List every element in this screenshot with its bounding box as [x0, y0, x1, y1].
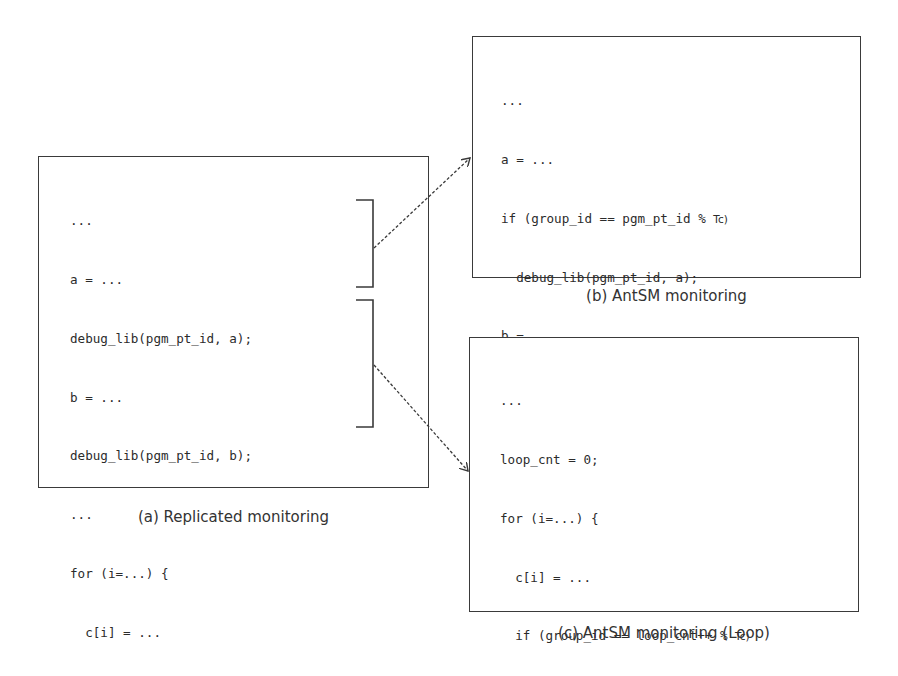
code-line: ...	[70, 211, 282, 231]
panel-a-caption: (a) Replicated monitoring	[38, 508, 429, 526]
code-line: debug_lib(pgm_pt_id, a);	[501, 268, 728, 288]
code-line: a = ...	[501, 150, 728, 170]
code-line: for (i=...) {	[500, 509, 750, 529]
code-line: a = ...	[70, 270, 282, 290]
code-text: if (group_id == pgm_pt_id %	[501, 211, 713, 226]
tc-symbol: Tc)	[713, 213, 728, 225]
code-line: loop_cnt = 0;	[500, 450, 750, 470]
code-line: debug_lib(pgm_pt_id, a);	[70, 329, 282, 349]
code-line: ...	[501, 91, 728, 111]
panel-a-code: ... a = ... debug_lib(pgm_pt_id, a); b =…	[70, 172, 282, 676]
code-line: c[i] = ...	[500, 568, 750, 588]
code-line: b = ...	[70, 388, 282, 408]
code-line: debug_lib(pgm_pt_id, b);	[70, 446, 282, 466]
code-line: c[i] = ...	[70, 623, 282, 643]
code-line: for (i=...) {	[70, 564, 282, 584]
panel-c-caption: (c) AntSM monitoring (Loop)	[469, 624, 859, 642]
code-line: if (group_id == pgm_pt_id % Tc)	[501, 209, 728, 229]
panel-b-caption: (b) AntSM monitoring	[472, 287, 861, 305]
code-line: ...	[500, 391, 750, 411]
